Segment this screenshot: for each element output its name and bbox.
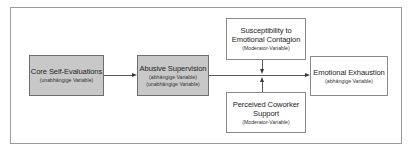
node-susceptibility-emotional-contagion: Susceptibility to Emotional Contagion (M…: [226, 18, 306, 60]
node-role-label: (Moderator-Variable): [242, 45, 289, 51]
node-role-label: (unabhängige Variable): [40, 77, 94, 83]
node-role-label: (unabhängige Variable): [146, 81, 200, 87]
node-role-label: (abhängige Variable): [325, 78, 373, 84]
node-title: Abusive Supervision: [140, 64, 207, 73]
node-title-line: Susceptibility to: [240, 26, 291, 35]
node-title: Core Self-Evaluations: [31, 67, 102, 76]
node-title: Emotional Exhaustion: [313, 68, 384, 77]
arrowhead-down-icon: [260, 69, 264, 74]
node-title-line: Support: [253, 109, 279, 118]
node-role-label: (Moderator-Variable): [242, 119, 289, 125]
node-emotional-exhaustion: Emotional Exhaustion (abhängige Variable…: [310, 56, 388, 96]
node-title-line: Perceived Coworker: [233, 100, 300, 109]
edge-core-to-abusive-line: [104, 75, 132, 76]
edge-abusive-to-exhaustion-line: [209, 75, 305, 76]
node-perceived-coworker-support: Perceived Coworker Support (Moderator-Va…: [226, 92, 306, 133]
node-core-self-evaluations: Core Self-Evaluations (unabhängige Varia…: [29, 55, 104, 96]
node-title-line: Emotional Contagion: [232, 35, 301, 44]
arrowhead-up-icon: [260, 77, 264, 82]
edge-coworker-support-moderation-line: [262, 81, 263, 92]
node-abusive-supervision: Abusive Supervision (abhängige Variable)…: [137, 55, 209, 96]
